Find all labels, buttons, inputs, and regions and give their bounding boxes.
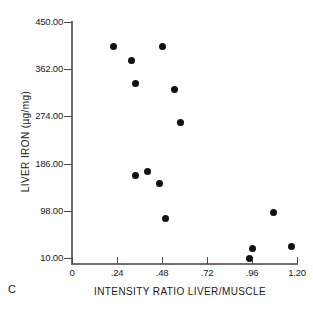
x-axis-tick-label: 1.20 <box>277 267 313 278</box>
y-axis-tick <box>64 211 72 212</box>
x-axis-tick-label: 0 <box>52 267 92 278</box>
y-axis-tick-label: 10.00 <box>3 253 63 263</box>
y-axis-tick-label: 186.00 <box>3 159 63 169</box>
y-axis-tick <box>64 258 72 259</box>
data-point <box>132 80 139 87</box>
x-axis-tick-label: .24 <box>97 267 137 278</box>
data-point <box>171 86 178 93</box>
x-axis-tick <box>162 257 163 264</box>
panel-label: C <box>8 283 16 295</box>
scatter-plot-figure: 10.0098.00186.00274.00362.00450.000.24.4… <box>0 0 313 309</box>
y-axis-tick <box>64 164 72 165</box>
data-point <box>270 209 277 216</box>
data-point <box>249 245 256 252</box>
y-axis-tick <box>64 69 72 70</box>
y-axis-tick-label: 98.00 <box>3 206 63 216</box>
data-point <box>162 215 169 222</box>
data-point <box>144 168 151 175</box>
y-axis-line <box>71 21 73 265</box>
y-axis-tick <box>64 22 72 23</box>
y-axis-tick <box>64 116 72 117</box>
y-axis-tick-label: 362.00 <box>3 64 63 74</box>
x-axis-line <box>71 263 298 265</box>
x-axis-tick-label: .48 <box>142 267 182 278</box>
data-point <box>246 255 253 262</box>
data-point <box>132 172 139 179</box>
y-axis-title: LIVER IRON (µg/mg) <box>20 42 31 242</box>
x-axis-tick <box>72 257 73 264</box>
x-axis-tick <box>297 257 298 264</box>
x-axis-tick <box>117 257 118 264</box>
data-point <box>177 119 184 126</box>
x-axis-tick <box>207 257 208 264</box>
x-axis-title: INTENSITY RATIO LIVER/MUSCLE <box>55 286 305 297</box>
y-axis-tick-label: 274.00 <box>3 111 63 121</box>
data-point <box>156 180 163 187</box>
data-point <box>159 43 166 50</box>
data-point <box>288 243 295 250</box>
x-axis-tick-label: .72 <box>187 267 227 278</box>
y-axis-tick-label: 450.00 <box>3 17 63 27</box>
data-point <box>128 57 135 64</box>
data-point <box>110 43 117 50</box>
x-axis-tick-label: .96 <box>232 267 272 278</box>
